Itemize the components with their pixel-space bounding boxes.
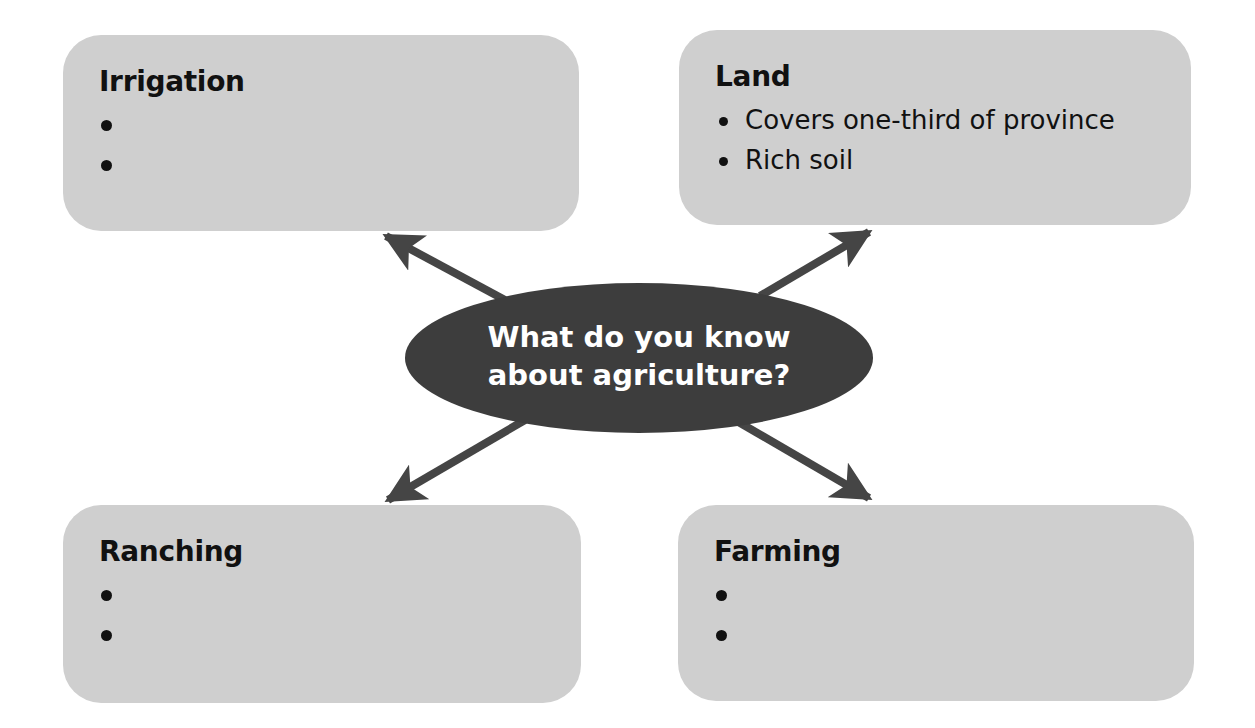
- bullet-item: [714, 615, 1194, 655]
- farming-title: Farming: [714, 535, 1194, 569]
- arrow-to-irrigation: [386, 236, 505, 300]
- land-box: Land Covers one-third of province Rich s…: [679, 30, 1191, 225]
- center-question-line-1: What do you know: [405, 318, 873, 356]
- land-bullets: Covers one-third of province Rich soil: [715, 100, 1191, 180]
- bullet-item: Rich soil: [715, 140, 1191, 180]
- center-question-line-2: about agriculture?: [405, 356, 873, 394]
- arrow-to-land: [760, 232, 869, 296]
- arrow-to-farming: [735, 420, 869, 498]
- irrigation-box: Irrigation: [63, 35, 579, 231]
- bullet-item: [99, 145, 579, 185]
- bullet-item: [714, 575, 1194, 615]
- center-question: What do you know about agriculture?: [405, 318, 873, 394]
- irrigation-title: Irrigation: [99, 65, 579, 99]
- bullet-item: [99, 615, 581, 655]
- arrow-to-ranching: [388, 420, 525, 500]
- bullet-item: [99, 105, 579, 145]
- irrigation-bullets: [99, 105, 579, 185]
- farming-box: Farming: [678, 505, 1194, 701]
- land-title: Land: [715, 60, 1191, 94]
- ranching-box: Ranching: [63, 505, 581, 703]
- ranching-title: Ranching: [99, 535, 581, 569]
- bullet-item: [99, 575, 581, 615]
- bullet-item: Covers one-third of province: [715, 100, 1191, 140]
- farming-bullets: [714, 575, 1194, 655]
- ranching-bullets: [99, 575, 581, 655]
